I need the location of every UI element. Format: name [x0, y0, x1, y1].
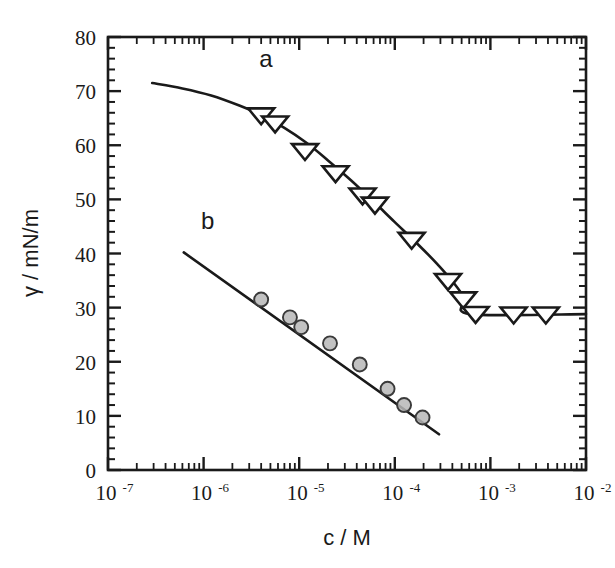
data-point-circle	[254, 293, 268, 307]
y-tick-label: 80	[75, 26, 96, 50]
data-point-circle	[283, 310, 297, 324]
data-point-circle	[353, 357, 367, 371]
y-tick-label: 60	[75, 134, 96, 158]
data-point-circle	[323, 336, 337, 350]
y-tick-label: 20	[75, 351, 96, 375]
x-tick-exponent: -5	[314, 480, 325, 495]
x-tick-exponent: -4	[409, 480, 420, 495]
y-tick-label: 40	[75, 243, 96, 267]
x-tick-mantissa: 10	[478, 481, 499, 505]
data-point-circle	[381, 382, 395, 396]
x-tick-mantissa: 10	[191, 481, 212, 505]
data-point-circle	[397, 398, 411, 412]
y-tick-label: 30	[75, 297, 96, 321]
x-tick-exponent: -6	[218, 480, 229, 495]
x-tick-mantissa: 10	[96, 481, 117, 505]
y-axis-title: γ / mN/m	[18, 209, 43, 297]
x-tick-mantissa: 10	[382, 481, 403, 505]
data-point-circle	[294, 320, 308, 334]
data-point-circle	[416, 411, 430, 425]
y-tick-label: 70	[75, 80, 96, 104]
x-tick-exponent: -3	[505, 480, 516, 495]
x-axis-title: c / M	[323, 525, 371, 550]
x-tick-exponent: -7	[123, 480, 134, 495]
series-annotation-b: b	[201, 207, 214, 234]
y-tick-label: 0	[86, 459, 97, 483]
surface-tension-plot: 01020304050607080 10-710-610-510-410-310…	[0, 0, 615, 568]
y-axis-tick-labels: 01020304050607080	[75, 26, 96, 483]
x-tick-mantissa: 10	[287, 481, 308, 505]
series-annotation-a: a	[259, 45, 273, 72]
y-tick-label: 50	[75, 188, 96, 212]
y-tick-label: 10	[75, 405, 96, 429]
figure-container: 01020304050607080 10-710-610-510-410-310…	[0, 0, 615, 568]
x-tick-exponent: -2	[601, 480, 612, 495]
x-tick-mantissa: 10	[574, 481, 595, 505]
